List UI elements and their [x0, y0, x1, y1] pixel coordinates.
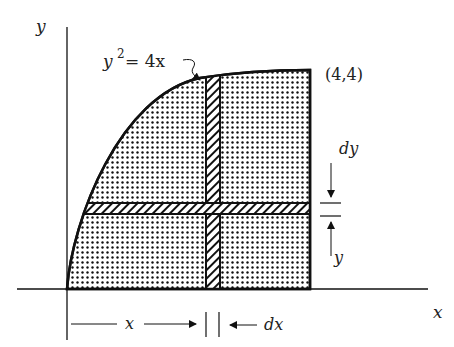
curve-pointer-arrow: [183, 59, 200, 80]
y-axis-label: y: [35, 16, 46, 36]
x-distance-label: x: [125, 314, 134, 333]
horizontal-strip: [60, 203, 320, 214]
vertical-strip: [206, 60, 220, 290]
curve-label-exponent: 2: [117, 47, 125, 61]
point-label: (4,4): [325, 65, 363, 84]
x-axis-label: x: [433, 302, 443, 322]
dy-label: dy: [339, 139, 359, 158]
curve-label-rest: = 4x: [125, 51, 165, 71]
y-distance-label: y: [333, 248, 344, 267]
integration-diagram: y x y 2 = 4x (4,4) dy y x dx: [0, 0, 454, 347]
dx-label: dx: [264, 315, 283, 334]
shaded-region: [67, 70, 310, 289]
curve-label-y: y: [102, 51, 113, 71]
